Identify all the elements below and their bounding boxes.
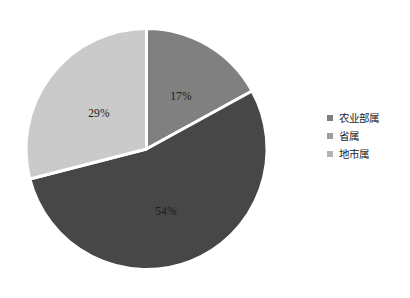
pie-slice-label-2: 29%	[88, 107, 110, 119]
legend-swatch-icon-0	[327, 115, 333, 121]
pie-slice-label-1: 54%	[155, 205, 177, 217]
legend-label-1: 省属	[339, 131, 359, 142]
chart-legend: 农业部属 省属 地市属	[327, 109, 407, 163]
pie-slice-group	[26, 29, 267, 270]
legend-label-0: 农业部属	[339, 113, 379, 124]
pie-chart: 17%54%29% 农业部属 省属 地市属	[0, 0, 410, 298]
legend-item-2[interactable]: 地市属	[327, 145, 407, 163]
legend-label-2: 地市属	[339, 149, 369, 160]
pie-slice-label-0: 17%	[170, 90, 192, 102]
legend-swatch-icon-2	[327, 151, 333, 157]
legend-item-0[interactable]: 农业部属	[327, 109, 407, 127]
legend-swatch-icon-1	[327, 133, 333, 139]
legend-item-1[interactable]: 省属	[327, 127, 407, 145]
